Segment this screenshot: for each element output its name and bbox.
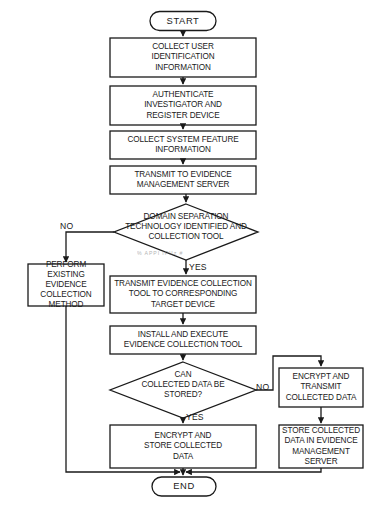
node-perform-existing-shape bbox=[28, 264, 104, 306]
node-encrypt-transmit-shape bbox=[279, 368, 363, 407]
edge-label-store-yes: YES bbox=[186, 412, 204, 422]
node-store-in-ems-shape bbox=[279, 425, 363, 468]
node-transmit-ems-shape bbox=[110, 166, 256, 194]
node-install-exec-shape bbox=[110, 326, 256, 354]
node-transmit-tool-shape bbox=[110, 276, 256, 313]
node-collect-user-shape bbox=[110, 38, 256, 77]
edge-label-store-no: NO bbox=[256, 382, 269, 392]
flowchart-graphics bbox=[0, 0, 377, 516]
edge-perform-to-bus bbox=[66, 306, 180, 472]
node-end-shape bbox=[152, 477, 216, 496]
edge-label-domain-no: NO bbox=[60, 221, 73, 231]
node-encrypt-store-shape bbox=[110, 425, 256, 468]
node-sys-feature-shape bbox=[110, 131, 256, 159]
node-authenticate-shape bbox=[110, 86, 256, 125]
scan-artifact-text: % ΑΡΡΙ ΙΡΙΙⱬ # bbox=[137, 250, 183, 256]
node-domain-sep-shape bbox=[114, 204, 258, 260]
node-can-store-shape bbox=[110, 362, 256, 418]
flowchart-canvas: START COLLECT USER IDENTIFICATION INFORM… bbox=[0, 0, 377, 516]
edge-label-domain-yes: YES bbox=[189, 262, 207, 272]
node-start-shape bbox=[150, 12, 216, 31]
edge-domain-no-to-perform bbox=[66, 232, 114, 262]
